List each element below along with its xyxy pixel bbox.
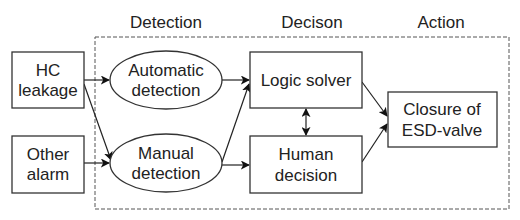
svg-text:Human: Human (279, 145, 334, 164)
edge-logic-to-closure (362, 82, 387, 116)
svg-text:detection: detection (132, 164, 201, 183)
svg-text:decision: decision (275, 166, 337, 185)
svg-text:detection: detection (132, 81, 201, 100)
edge-hc-to-manual (84, 84, 111, 160)
node-human-decision: Human decision (250, 136, 362, 193)
svg-text:alarm: alarm (27, 165, 70, 184)
node-logic-solver: Logic solver (250, 52, 362, 108)
node-automatic-detection: Automatic detection (110, 51, 222, 109)
header-action: Action (417, 13, 464, 32)
svg-text:Closure of: Closure of (403, 100, 481, 119)
svg-text:ESD-valve: ESD-valve (402, 121, 482, 140)
edge-human-to-closure (362, 124, 387, 162)
header-decision: Decison (281, 13, 342, 32)
svg-text:Other: Other (27, 145, 70, 164)
node-manual-detection: Manual detection (110, 134, 222, 192)
edge-manual-to-logic (222, 84, 249, 162)
node-closure-esd-valve: Closure of ESD-valve (388, 92, 497, 147)
node-hc-leakage: HC leakage (12, 52, 84, 108)
safety-barrier-diagram: Detection Decison Action HC leakage Othe… (0, 0, 520, 220)
node-other-alarm: Other alarm (12, 136, 84, 193)
svg-text:Automatic: Automatic (128, 61, 204, 80)
svg-text:leakage: leakage (18, 81, 78, 100)
svg-text:Logic solver: Logic solver (261, 71, 352, 90)
svg-text:Manual: Manual (138, 144, 194, 163)
header-detection: Detection (130, 13, 202, 32)
svg-text:HC: HC (36, 61, 61, 80)
